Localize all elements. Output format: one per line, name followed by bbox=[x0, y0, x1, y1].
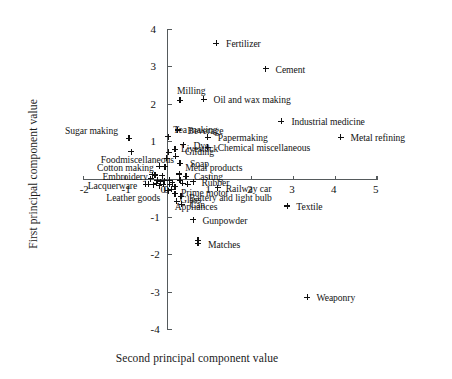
y-axis-tick-label: -2 bbox=[151, 248, 160, 260]
marker-bar-v bbox=[193, 179, 194, 185]
marker-bar-v bbox=[152, 172, 153, 178]
marker-bar-v bbox=[179, 171, 180, 177]
data-point-label: Cement bbox=[276, 65, 306, 75]
marker-bar-v bbox=[181, 201, 182, 207]
marker-bar-v bbox=[182, 180, 183, 186]
data-point-label: Metal refining bbox=[351, 133, 405, 143]
marker-bar-v bbox=[168, 134, 169, 140]
x-axis-tick-label: 3 bbox=[289, 183, 295, 195]
data-point-label: Milling bbox=[177, 86, 205, 96]
y-axis-tick bbox=[168, 292, 172, 293]
x-axis-tick bbox=[376, 176, 377, 180]
marker-bar-v bbox=[174, 191, 175, 197]
marker-bar-v bbox=[159, 163, 160, 169]
data-point-label: Weaponry bbox=[316, 293, 355, 303]
marker-bar-v bbox=[179, 97, 180, 103]
x-axis-tick-label: 4 bbox=[331, 183, 337, 195]
y-axis-tick bbox=[168, 217, 172, 218]
marker-bar-v bbox=[180, 193, 181, 199]
data-point-label: Chemical miscellaneous bbox=[218, 143, 310, 153]
y-axis-tick-label: 2 bbox=[151, 98, 157, 110]
data-point-label: Matches bbox=[208, 240, 240, 250]
marker-bar-v bbox=[340, 134, 341, 140]
marker-bar-v bbox=[217, 185, 218, 191]
marker-bar-v bbox=[287, 203, 288, 209]
data-point-label: Can bbox=[190, 200, 205, 210]
y-axis-tick bbox=[168, 254, 172, 255]
data-point-label: Sugar making bbox=[65, 126, 118, 136]
x-axis-tick bbox=[335, 176, 336, 180]
y-axis-tick-label: -4 bbox=[151, 323, 160, 335]
y-axis-tick bbox=[168, 141, 172, 142]
data-point-label: Lacquerware bbox=[88, 181, 138, 191]
marker-bar-v bbox=[168, 188, 169, 194]
y-axis-tick-label: 4 bbox=[151, 23, 157, 35]
y-axis-tick-label: -3 bbox=[151, 286, 160, 298]
y-axis-tick bbox=[168, 329, 172, 330]
marker-bar-v bbox=[193, 217, 194, 223]
marker-bar-v bbox=[185, 173, 186, 179]
marker-bar-v bbox=[172, 180, 173, 186]
data-point-label: Tea making bbox=[173, 125, 217, 135]
data-point-label: Fertilizer bbox=[226, 39, 261, 49]
x-axis-tick bbox=[83, 176, 84, 180]
marker-bar-v bbox=[179, 160, 180, 166]
y-axis-tick-label: -1 bbox=[151, 211, 160, 223]
data-point-label: Livestock bbox=[181, 144, 218, 154]
marker-bar-v bbox=[281, 118, 282, 124]
marker-bar-v bbox=[145, 181, 146, 187]
x-axis-tick bbox=[293, 176, 294, 180]
marker-bar-v bbox=[216, 40, 217, 46]
data-point-label: Oil and wax making bbox=[214, 95, 291, 105]
marker-bar-v bbox=[203, 96, 204, 102]
y-axis-tick bbox=[168, 104, 172, 105]
marker-bar-v bbox=[265, 66, 266, 72]
plot-area: -2-1012345-4-3-2-101234FertilizerCementM… bbox=[0, 0, 452, 379]
y-axis-tick bbox=[168, 66, 172, 67]
x-axis-tick bbox=[251, 176, 252, 180]
marker-bar-v bbox=[197, 240, 198, 246]
data-point-label: Industrial medicine bbox=[291, 117, 364, 127]
marker-bar-v bbox=[128, 135, 129, 141]
marker-bar-v bbox=[174, 184, 175, 190]
data-point-label: Gunpowder bbox=[202, 216, 247, 226]
y-axis-tick bbox=[168, 29, 172, 30]
marker-bar-v bbox=[307, 294, 308, 300]
scatter-plot-figure: First principal component value Second p… bbox=[0, 0, 452, 379]
marker-bar-v bbox=[163, 181, 164, 187]
x-axis-tick-label: 5 bbox=[373, 183, 379, 195]
y-axis-tick-label: 1 bbox=[151, 135, 157, 147]
y-axis-tick-label: 3 bbox=[151, 60, 157, 72]
data-point-label: Textile bbox=[296, 202, 322, 212]
data-point-label: Leather goods bbox=[106, 193, 160, 203]
marker-bar-v bbox=[174, 146, 175, 152]
marker-bar-v bbox=[175, 153, 176, 159]
